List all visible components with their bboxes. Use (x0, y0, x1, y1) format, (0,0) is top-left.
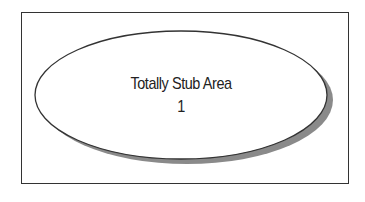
ellipse-body (35, 31, 327, 159)
area-number-label: 1 (57, 97, 305, 117)
area-name-label: Totally Stub Area (57, 74, 305, 94)
